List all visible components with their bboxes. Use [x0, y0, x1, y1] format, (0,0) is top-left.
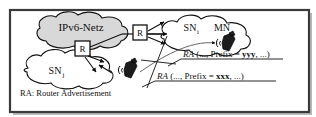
annotation-ra-xxx-close: , ...): [230, 71, 244, 81]
annotation-ra-xxx: RA (..., Prefix = xxx, ...): [156, 71, 244, 81]
legend-ra: RA: Router Advertisement: [20, 88, 112, 98]
annotation-ra-yyy-close: , ...): [256, 49, 270, 59]
figure-container: IPv6-Netz SN i MN SN j R: [0, 0, 316, 117]
annotation-ra-yyy-open: (..., Prefix =: [194, 49, 242, 59]
annotation-ra-xxx-open: (..., Prefix =: [168, 71, 216, 81]
router-left[interactable]: R: [75, 41, 90, 56]
cloud-label-sn-j: SN: [49, 65, 62, 76]
annotation-ra-yyy-value: yyy: [242, 49, 256, 59]
network-diagram: IPv6-Netz SN i MN SN j R: [0, 0, 316, 117]
cloud-label-sn-i: SN: [184, 22, 197, 33]
annotation-ra-xxx-value: xxx: [216, 71, 230, 81]
cloud-label-sn-i-subscript: i: [197, 28, 199, 36]
mobile-node-label: MN: [214, 22, 230, 33]
cloud-label-sn-j-subscript: j: [62, 71, 65, 79]
annotation-ra-yyy-keyword: RA: [182, 49, 194, 59]
router-left-label: R: [79, 44, 85, 54]
router-right[interactable]: R: [133, 25, 147, 40]
annotation-ra-yyy: RA (..., Prefix = yyy, ...): [182, 49, 270, 59]
router-right-label: R: [137, 28, 143, 38]
cloud-label-ipv6: IPv6-Netz: [58, 21, 103, 33]
annotation-ra-xxx-keyword: RA: [156, 71, 168, 81]
